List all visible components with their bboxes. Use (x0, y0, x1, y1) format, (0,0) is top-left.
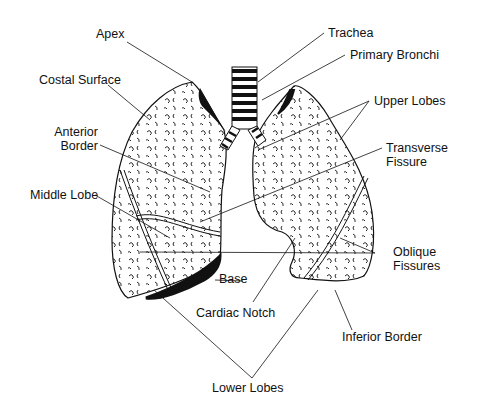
label-transverse-fissure: Transverse Fissure (386, 141, 448, 169)
label-base: Base (219, 272, 248, 286)
label-primary-bronchi: Primary Bronchi (350, 48, 439, 62)
label-cardiac-notch: Cardiac Notch (196, 306, 275, 320)
trachea (232, 67, 257, 129)
label-transverse-fissure-line2: Fissure (386, 155, 448, 169)
label-inferior-border: Inferior Border (342, 330, 422, 344)
label-oblique-fissures: Oblique Fissures (393, 245, 440, 273)
label-upper-lobes: Upper Lobes (374, 94, 446, 108)
left-lung (253, 86, 374, 281)
label-transverse-fissure-line1: Transverse (386, 141, 448, 155)
label-lower-lobes: Lower Lobes (212, 381, 284, 395)
label-oblique-fissures-line2: Fissures (393, 259, 440, 273)
label-anterior-border-line1: Anterior (40, 125, 98, 139)
label-oblique-fissures-line1: Oblique (393, 245, 440, 259)
label-trachea: Trachea (328, 26, 373, 40)
label-costal-surface: Costal Surface (39, 73, 121, 87)
label-anterior-border-line2: Border (40, 139, 98, 153)
label-apex: Apex (96, 27, 125, 41)
label-anterior-border: Anterior Border (40, 125, 98, 153)
right-lung (112, 82, 226, 298)
label-middle-lobe: Middle Lobe (30, 188, 98, 202)
lung-diagram: Apex Costal Surface Anterior Border Midd… (0, 0, 478, 411)
